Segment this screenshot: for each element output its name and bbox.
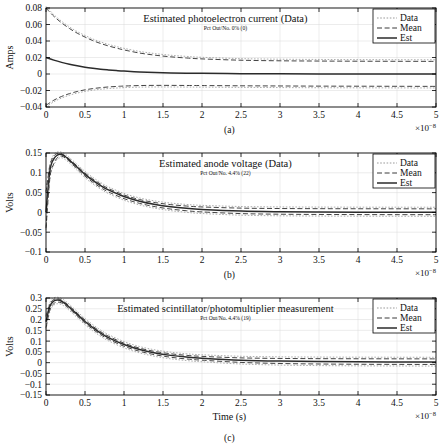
legend: DataMeanEst xyxy=(373,299,435,333)
y-tick-label: 0.08 xyxy=(25,3,42,13)
y-tick-label: 0 xyxy=(37,69,42,79)
x-tick-label: 4.5 xyxy=(391,110,403,120)
x-tick-label: 2.5 xyxy=(235,255,247,265)
x-tick-label: 4 xyxy=(356,398,361,408)
chart-panel-b: 00.511.522.533.544.55−0.1−0.0500.050.10.… xyxy=(0,145,446,290)
x-tick-label: 2 xyxy=(200,110,205,120)
legend-label-data: Data xyxy=(400,158,419,168)
x-tick-label: 0.5 xyxy=(79,255,91,265)
y-tick-label: 0.15 xyxy=(25,148,42,158)
y-tick-label: 0.15 xyxy=(25,326,42,336)
x-tick-label: 1.5 xyxy=(157,110,169,120)
x-tick-label: 2.5 xyxy=(235,398,247,408)
chart-subtitle: Pct Out/No. 4.4% (19) xyxy=(200,315,251,322)
y-tick-label: 0.05 xyxy=(25,347,42,357)
x-tick-label: 0 xyxy=(44,255,49,265)
x-tick-label: 3 xyxy=(278,110,283,120)
panel-label: (b) xyxy=(224,270,235,281)
legend: DataMeanEst xyxy=(373,9,435,43)
y-tick-label: 0.1 xyxy=(30,337,42,347)
plot-area-c: 00.511.522.533.544.55−0.15−0.1−0.0500.05… xyxy=(0,290,446,447)
legend-label-mean: Mean xyxy=(400,23,422,33)
x-tick-label: 2 xyxy=(200,255,205,265)
x-tick-label: 3.5 xyxy=(313,110,325,120)
x-tick-label: 3 xyxy=(278,255,283,265)
chart-title: Estimated scintillator/photomultiplier m… xyxy=(117,303,333,314)
y-tick-label: 0.2 xyxy=(30,315,42,325)
x-tick-label: 5 xyxy=(434,110,439,120)
y-tick-label: 0.1 xyxy=(30,168,42,178)
x-axis-exponent: ×10−8 xyxy=(415,122,436,133)
x-tick-label: 3 xyxy=(278,398,283,408)
figure-root: 00.511.522.533.544.55−0.04−0.0200.020.04… xyxy=(0,0,446,447)
y-tick-label: 0.02 xyxy=(25,53,42,63)
x-tick-label: 2.5 xyxy=(235,110,247,120)
y-tick-label: 0 xyxy=(37,358,42,368)
chart-subtitle: Pct Out/No. 0% (0) xyxy=(204,25,248,32)
x-tick-label: 1 xyxy=(122,398,127,408)
y-tick-label: 0.25 xyxy=(25,304,42,314)
y-tick-label: 0.3 xyxy=(30,293,42,303)
x-tick-label: 4 xyxy=(356,110,361,120)
legend-label-data: Data xyxy=(400,13,419,23)
y-axis-title: Amps xyxy=(4,45,15,69)
x-tick-label: 0 xyxy=(44,110,49,120)
x-tick-label: 0 xyxy=(44,398,49,408)
y-tick-label: 0.05 xyxy=(25,188,42,198)
x-tick-label: 3.5 xyxy=(313,398,325,408)
legend-label-mean: Mean xyxy=(400,313,422,323)
legend-label-est: Est xyxy=(400,178,413,188)
x-tick-label: 4 xyxy=(356,255,361,265)
y-tick-label: 0 xyxy=(37,208,42,218)
y-tick-label: 0.04 xyxy=(25,36,42,46)
x-tick-label: 1.5 xyxy=(157,398,169,408)
chart-panel-c: 00.511.522.533.544.55−0.15−0.1−0.0500.05… xyxy=(0,290,446,447)
legend-label-est: Est xyxy=(400,323,413,333)
x-tick-label: 5 xyxy=(434,398,439,408)
y-tick-label: −0.02 xyxy=(20,86,42,96)
x-tick-label: 1 xyxy=(122,110,127,120)
x-tick-label: 1.5 xyxy=(157,255,169,265)
x-axis-exponent: ×10−8 xyxy=(415,267,436,278)
plot-area-b: 00.511.522.533.544.55−0.1−0.0500.050.10.… xyxy=(0,145,446,290)
x-tick-label: 1 xyxy=(122,255,127,265)
x-tick-label: 0.5 xyxy=(79,110,91,120)
x-tick-label: 0.5 xyxy=(79,398,91,408)
legend-label-est: Est xyxy=(400,33,413,43)
x-tick-label: 2 xyxy=(200,398,205,408)
y-tick-label: −0.04 xyxy=(20,102,42,112)
x-tick-label: 3.5 xyxy=(313,255,325,265)
chart-title: Estimated photoelectron current (Data) xyxy=(143,13,308,25)
legend-label-data: Data xyxy=(400,303,419,313)
y-tick-label: −0.1 xyxy=(25,380,42,390)
x-tick-label: 4.5 xyxy=(391,398,403,408)
panel-label: (c) xyxy=(224,433,235,444)
legend-label-mean: Mean xyxy=(400,168,422,178)
y-tick-label: −0.1 xyxy=(25,247,42,257)
x-axis-title: Time (s) xyxy=(212,411,246,423)
chart-panel-a: 00.511.522.533.544.55−0.04−0.0200.020.04… xyxy=(0,0,446,145)
panel-label: (a) xyxy=(224,125,235,136)
y-tick-label: −0.05 xyxy=(20,228,42,238)
y-axis-title: Volts xyxy=(4,192,15,212)
y-tick-label: −0.15 xyxy=(20,390,42,400)
chart-title: Estimated anode voltage (Data) xyxy=(159,158,292,170)
y-tick-label: 0.06 xyxy=(25,20,42,30)
y-axis-title: Volts xyxy=(4,336,15,356)
x-tick-label: 5 xyxy=(434,255,439,265)
plot-area-a: 00.511.522.533.544.55−0.04−0.0200.020.04… xyxy=(0,0,446,145)
x-axis-exponent: ×10−8 xyxy=(415,410,436,421)
y-tick-label: −0.05 xyxy=(20,369,42,379)
legend: DataMeanEst xyxy=(373,154,435,188)
x-tick-label: 4.5 xyxy=(391,255,403,265)
chart-subtitle: Pct Out/No. 4.4% (22) xyxy=(200,170,251,177)
